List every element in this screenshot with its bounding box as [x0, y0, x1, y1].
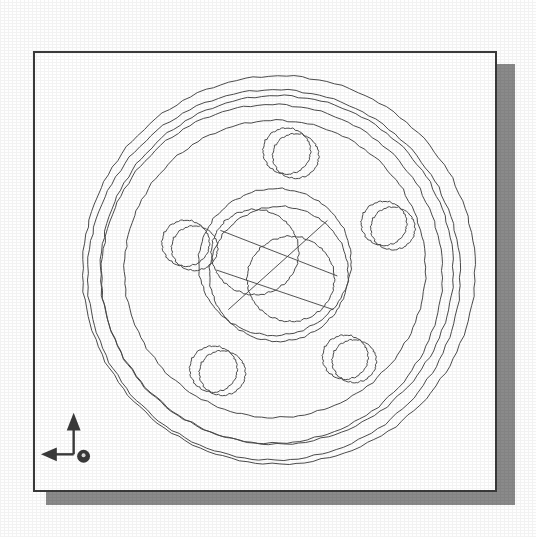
bolt-hole-left-near — [171, 226, 218, 271]
hub-boss-outer — [198, 188, 351, 336]
ucs-origin-dot — [82, 453, 86, 457]
rim-shoulder-a — [100, 95, 453, 445]
hub-boss-inner — [209, 206, 349, 342]
cad-wireframe-drawing[interactable] — [35, 53, 495, 490]
ucs-x-arrowhead — [41, 447, 57, 461]
bore-bottom — [246, 236, 335, 322]
bolt-hole-top-far — [262, 128, 311, 175]
bolt-hole-lower-left-near — [199, 350, 246, 395]
bore-top — [211, 209, 300, 295]
ucs-y-arrowhead — [67, 413, 81, 431]
scan-canvas — [0, 0, 536, 537]
flange-face — [124, 120, 427, 419]
ucs-axis-indicator — [41, 413, 90, 463]
bolt-hole-top-near — [272, 133, 319, 178]
outer-rim-front — [83, 76, 476, 465]
wireframe-geometry — [83, 76, 476, 465]
hub-chord-a — [220, 230, 337, 276]
hub-chord-b — [228, 220, 327, 309]
drawing-sheet[interactable] — [33, 51, 497, 492]
bolt-hole-left-far — [161, 220, 210, 267]
bolt-hole-lower-right-near — [331, 339, 376, 382]
